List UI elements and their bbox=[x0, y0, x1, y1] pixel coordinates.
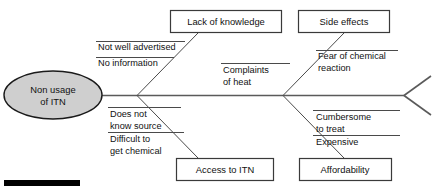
category-label-side-effects: Side effects bbox=[320, 16, 369, 27]
category-label-affordability: Affordability bbox=[321, 164, 370, 175]
cause-label-fear-of-chemical: Fear of chemical bbox=[318, 51, 386, 61]
cause-label-know-source: know source bbox=[110, 121, 162, 131]
cause-label-no-information: No information bbox=[98, 58, 158, 68]
cause-label-expensive: Expensive bbox=[316, 137, 358, 147]
cause-label-reaction: reaction bbox=[318, 63, 351, 73]
cause-label-does-not: Does not bbox=[110, 109, 147, 119]
category-label-lack-of-knowledge: Lack of knowledge bbox=[187, 16, 265, 27]
effect-label-line-1: Non usage bbox=[30, 84, 75, 95]
cause-label-complaints: Complaints bbox=[223, 65, 269, 75]
category-label-access-to-itn: Access to ITN bbox=[196, 164, 254, 175]
redaction-bar bbox=[4, 180, 80, 186]
cause-label-cumbersome: Cumbersome bbox=[316, 112, 371, 122]
cause-label-not-well-advertised: Not well advertised bbox=[98, 42, 176, 52]
spine-arrowhead-lower bbox=[404, 96, 431, 116]
cause-label-get-chemical: get chemical bbox=[110, 146, 162, 156]
effect-label-line-2: of ITN bbox=[40, 96, 66, 107]
cause-label-of-heat: of heat bbox=[223, 77, 252, 87]
effect-ellipse[interactable] bbox=[4, 71, 102, 119]
cause-label-difficult-to: Difficult to bbox=[110, 134, 150, 144]
fishbone-diagram-canvas: Lack of knowledge Side effects Access to… bbox=[0, 0, 434, 191]
cause-label-to-treat: to treat bbox=[316, 124, 345, 134]
spine-arrowhead-upper bbox=[404, 76, 431, 96]
fishbone-svg: Lack of knowledge Side effects Access to… bbox=[0, 0, 434, 191]
